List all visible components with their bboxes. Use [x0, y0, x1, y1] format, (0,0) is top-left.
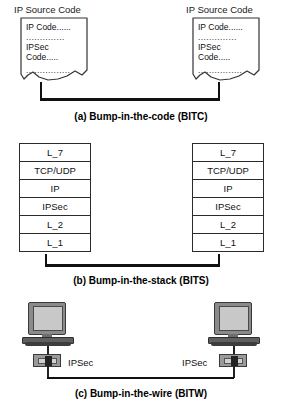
stack-layer: L_2 — [193, 216, 263, 234]
host-to-device-line-right — [233, 346, 235, 354]
protocol-stack-right: L_7 TCP/UDP IP IPSec L_2 L_1 — [192, 143, 264, 252]
ipsec-device-label-left: IPSec — [68, 357, 93, 368]
ipsec-implementation-diagram: IP Source Code IP Source Code IP Code...… — [0, 0, 282, 411]
monitor-icon — [28, 302, 66, 335]
source-code-header-right: IP Source Code — [186, 4, 253, 15]
code-line: IPSec — [198, 42, 258, 53]
caption-panel-a: (a) Bump-in-the-code (BITC) — [0, 111, 282, 122]
source-code-text-right: IP Code...... .............. IPSec Code.… — [198, 22, 258, 75]
ipsec-device-connector — [45, 356, 52, 366]
host-to-device-line-left — [47, 346, 49, 354]
computer-host-left — [22, 302, 74, 348]
stack-layer-ipsec: IPSec — [193, 198, 263, 216]
computer-host-right — [208, 302, 260, 348]
stack-layer: L_2 — [20, 216, 90, 234]
source-code-document-right: IP Code...... .............. IPSec Code.… — [192, 17, 260, 83]
code-dotted-line: .............. — [198, 33, 258, 42]
monitor-icon — [214, 302, 252, 335]
caption-panel-c: (c) Bump-in-the-wire (BITW) — [0, 388, 282, 399]
stack-layer-ipsec: IPSec — [20, 198, 90, 216]
stack-connector-bus — [45, 264, 220, 267]
stack-layer: L_1 — [193, 234, 263, 252]
monitor-screen — [33, 306, 63, 331]
code-dotted-line: ................ — [198, 66, 258, 75]
stack-layer: TCP/UDP — [193, 162, 263, 180]
code-line: Code..... — [26, 52, 86, 63]
ipsec-device-connector — [231, 356, 238, 366]
code-line: IP Code...... — [26, 22, 71, 32]
connector-bus — [40, 98, 220, 101]
code-dotted-line: .............. — [26, 33, 86, 42]
stack-layer: L_1 — [20, 234, 90, 252]
stack-layer: IP — [20, 180, 90, 198]
wire-bus — [47, 377, 234, 379]
code-dotted-line: ................ — [26, 66, 86, 75]
stack-layer: TCP/UDP — [20, 162, 90, 180]
ipsec-device-label-right: IPSec — [182, 357, 207, 368]
monitor-screen — [219, 306, 249, 331]
source-code-document-left: IP Code...... .............. IPSec Code.… — [20, 17, 88, 83]
stack-layer: IP — [193, 180, 263, 198]
code-line: IP Code...... — [198, 22, 243, 32]
caption-panel-b: (b) Bump-in-the-stack (BITS) — [0, 275, 282, 286]
stack-layer: L_7 — [193, 144, 263, 162]
protocol-stack-left: L_7 TCP/UDP IP IPSec L_2 L_1 — [19, 143, 91, 252]
code-line: Code..... — [198, 52, 258, 63]
source-code-text-left: IP Code...... .............. IPSec Code.… — [26, 22, 86, 75]
source-code-header-left: IP Source Code — [14, 4, 81, 15]
code-line: IPSec — [26, 42, 86, 53]
stack-layer: L_7 — [20, 144, 90, 162]
